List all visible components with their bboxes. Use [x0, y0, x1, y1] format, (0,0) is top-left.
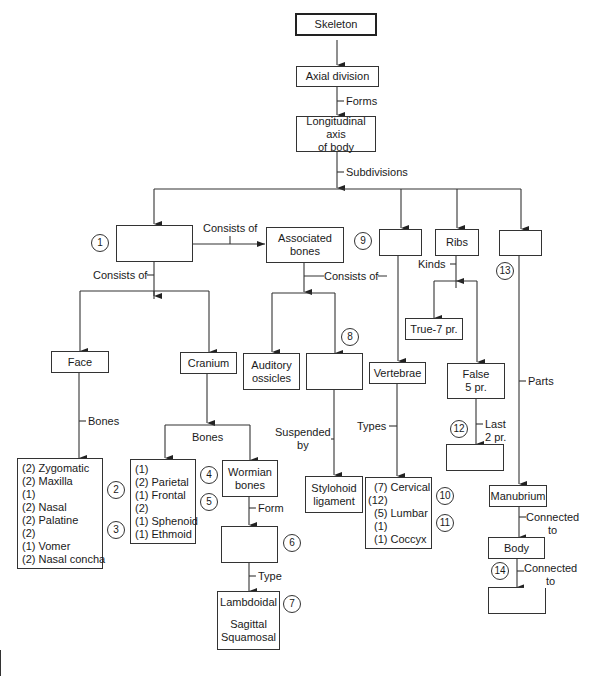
suture-item: Lambdoidal — [220, 596, 277, 609]
edge-label-types: Types — [357, 420, 386, 433]
edge-label-kinds: Kinds — [418, 258, 446, 271]
bone-item: (2) — [135, 502, 148, 515]
vertebra-item: (7) Cervical — [368, 481, 430, 494]
marker-11: 11 — [436, 514, 454, 532]
marker-5: 5 — [200, 493, 218, 511]
bone-item: (1) Sphenoid — [135, 515, 198, 528]
edge-label-line: to — [526, 524, 579, 537]
marker-7: 7 — [283, 595, 301, 613]
cranium-bones-list: (1) (2) Parietal (1) Frontal (2) (1) Sph… — [130, 459, 196, 544]
bone-item: (1) — [135, 463, 148, 476]
wormian-bones-node: Wormianbones — [222, 460, 278, 497]
edge-label-forms: Forms — [346, 95, 377, 108]
blank-node-12 — [446, 444, 504, 471]
edge-label-connected-to-1: Connected to — [526, 511, 579, 537]
bone-item: (1) — [22, 488, 35, 501]
edge-label-last: Last 2 pr. — [485, 418, 506, 444]
node-label: Longitudinal axis — [297, 115, 375, 141]
suture-item: Sagittal — [230, 618, 267, 631]
longitudinal-axis-node: Longitudinal axisof body — [296, 116, 376, 152]
bone-item: (2) Palatine — [22, 514, 78, 527]
edge-label-consists-of-right: Consists of — [203, 222, 257, 235]
true-ribs-node: True-7 pr. — [405, 318, 463, 340]
vertebrae-node: Vertebrae — [369, 362, 426, 384]
node-label: Skeleton — [315, 18, 358, 31]
marker-13: 13 — [496, 262, 514, 280]
cranium-node: Cranium — [180, 352, 237, 374]
node-label: Associated — [278, 232, 332, 245]
blank-node-9 — [379, 229, 422, 256]
node-label: Ribs — [446, 236, 468, 249]
stylohoid-ligament-node: Stylohoidligament — [305, 476, 363, 513]
node-label: Vertebrae — [374, 367, 422, 380]
body-node: Body — [488, 537, 545, 559]
edge-label-form: Form — [258, 502, 284, 515]
edge-label-line: Connected — [524, 562, 577, 575]
node-label: Face — [68, 356, 92, 369]
marker-6: 6 — [283, 534, 301, 552]
bone-item: (2) Parietal — [135, 476, 189, 489]
blank-node-13 — [499, 230, 542, 256]
marker-12: 12 — [450, 420, 468, 438]
auditory-ossicles-node: Auditoryossicles — [243, 353, 300, 390]
edge-label-consists-of-down: Consists of — [93, 269, 147, 282]
edge-label-bones-face: Bones — [88, 415, 119, 428]
false-ribs-node: False5 pr. — [447, 363, 505, 399]
node-label: Body — [504, 542, 529, 555]
vertebra-types-list: (7) Cervical (12) (5) Lumbar (1) (1) Coc… — [365, 477, 432, 549]
edge-label-parts: Parts — [528, 375, 554, 388]
node-label: bones — [290, 245, 320, 258]
edge-label-line: to — [524, 575, 577, 588]
vertebra-item: (1) Coccyx — [368, 533, 427, 546]
marker-2: 2 — [107, 481, 125, 499]
bone-item: (1) Vomer — [22, 540, 70, 553]
node-label: bones — [235, 479, 265, 492]
marker-1: 1 — [91, 234, 109, 252]
marker-8: 8 — [341, 328, 359, 346]
bone-item: (2) Nasal — [22, 501, 67, 514]
edge-label-line: by — [275, 439, 331, 452]
node-label: Auditory — [251, 359, 291, 372]
bone-item: (1) Frontal — [135, 489, 186, 502]
face-bones-list: (2) Zygomatic (2) Maxilla (1) (2) Nasal … — [17, 458, 103, 569]
edge-label-suspended-by: Suspended by — [275, 426, 331, 452]
marker-4: 4 — [200, 466, 218, 484]
edge-label-connected-to-2: Connected to — [524, 562, 577, 588]
node-label: Axial division — [306, 70, 370, 83]
blank-node-14 — [488, 587, 546, 614]
vertebra-item: (5) Lumbar — [368, 507, 428, 520]
edge-label-line: 2 pr. — [485, 431, 506, 444]
suture-item: Squamosal — [221, 631, 276, 644]
edge-label-bones-cranium: Bones — [192, 431, 223, 444]
blank-node-6 — [221, 526, 278, 563]
node-label: Manubrium — [490, 490, 545, 503]
vertebra-item: (1) — [368, 520, 387, 533]
node-label: 5 pr. — [465, 381, 486, 394]
edge-label-consists-of-assoc: Consists of — [324, 270, 378, 283]
edge-label-line: Last — [485, 418, 506, 431]
associated-bones-node: Associatedbones — [266, 227, 344, 263]
bone-item: (2) Zygomatic — [22, 462, 89, 475]
marker-9: 9 — [354, 232, 372, 250]
manubrium-node: Manubrium — [489, 485, 547, 507]
vertebra-item: (12) — [368, 494, 388, 507]
node-label: Stylohoid — [311, 482, 356, 495]
bone-item: (1) Ethmoid — [135, 528, 192, 541]
blank-node-8 — [306, 353, 363, 390]
blank-node-1 — [116, 225, 193, 262]
node-label: ligament — [313, 495, 355, 508]
node-label: Wormian — [228, 466, 272, 479]
bone-item: (2) Maxilla — [22, 475, 73, 488]
marker-14: 14 — [491, 562, 509, 580]
edge-label-subdivisions: Subdivisions — [346, 166, 408, 179]
bone-item: (2) — [22, 527, 35, 540]
edge-label-line: Suspended — [275, 426, 331, 439]
ribs-node: Ribs — [435, 229, 479, 256]
marker-10: 10 — [436, 487, 454, 505]
skeleton-node: Skeleton — [295, 13, 377, 36]
edge-label-line: Connected — [526, 511, 579, 524]
node-label: True-7 pr. — [410, 323, 457, 336]
node-label: False — [463, 368, 490, 381]
marker-3: 3 — [107, 521, 125, 539]
axial-division-node: Axial division — [296, 66, 379, 87]
